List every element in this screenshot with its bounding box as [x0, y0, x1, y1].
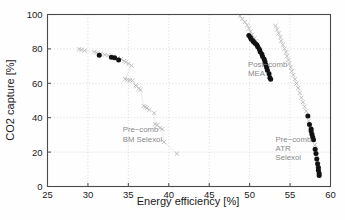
annotation-line: Selexol — [276, 153, 302, 162]
data-point-marker-x — [293, 77, 297, 81]
data-point-marker-dot — [313, 151, 318, 156]
data-point-marker-x — [275, 28, 279, 32]
annotation-line: Post−comb — [248, 60, 288, 69]
data-point-marker-x — [240, 17, 244, 21]
data-point-marker-x — [299, 96, 303, 100]
series-annotation: Pre−combBM Selexol — [123, 125, 163, 143]
data-point-marker-x — [243, 20, 247, 24]
y-axis-label: CO2 capture [%] — [4, 59, 16, 140]
data-point-marker-x — [138, 88, 142, 92]
data-point-marker-x — [303, 105, 307, 109]
annotation-line: BM Selexol — [123, 135, 163, 144]
data-point-marker-dot — [311, 137, 316, 142]
data-point-marker-dot — [268, 77, 273, 82]
data-point-marker-x — [289, 65, 293, 69]
tick-labels-layer: 2530354045505560020406080100 — [27, 9, 336, 200]
y-tick-label: 80 — [32, 43, 43, 54]
data-point-marker-dot — [267, 71, 272, 76]
data-point-marker-dot — [116, 57, 121, 62]
annotation-line: Pre−comb — [276, 135, 312, 144]
data-point-marker-dot — [314, 156, 319, 161]
y-tick-label: 60 — [32, 78, 43, 89]
data-point-marker-x — [279, 39, 283, 43]
data-point-marker-x — [278, 35, 282, 39]
data-point-marker-x — [284, 50, 288, 54]
x-tick-label: 55 — [285, 189, 296, 200]
data-point-marker-dot — [97, 53, 102, 58]
annotation-line: ATR — [276, 144, 291, 153]
data-point-marker-x — [147, 108, 151, 112]
data-point-marker-x — [282, 46, 286, 50]
data-point-marker-x — [296, 86, 300, 90]
data-point-marker-x — [285, 54, 289, 58]
x-tick-label: 30 — [83, 189, 94, 200]
data-point-marker-dot — [305, 113, 310, 118]
data-point-marker-x — [273, 24, 277, 28]
x-tick-label: 25 — [42, 189, 53, 200]
x-tick-label: 50 — [244, 189, 255, 200]
series-annotation: Pre−combATRSelexol — [276, 135, 312, 162]
data-point-marker-x — [281, 43, 285, 47]
x-tick-label: 35 — [123, 189, 134, 200]
annotation-line: MEA — [248, 69, 266, 78]
data-point-marker-x — [175, 152, 179, 156]
data-point-marker-x — [277, 31, 281, 35]
data-point-marker-x — [304, 109, 308, 113]
data-point-marker-x — [301, 100, 305, 104]
y-tick-label: 100 — [27, 9, 43, 20]
y-tick-label: 40 — [32, 112, 43, 123]
annotation-line: Pre−comb — [123, 125, 159, 134]
data-point-marker-dot — [313, 147, 318, 152]
data-point-marker-x — [298, 91, 302, 95]
data-point-marker-x — [287, 62, 291, 66]
data-point-marker-dot — [307, 122, 312, 127]
y-tick-label: 0 — [37, 181, 42, 192]
data-point-marker-x — [291, 73, 295, 77]
y-tick-label: 20 — [32, 147, 43, 158]
scatter-plot-canvas: 2530354045505560020406080100 Pre−combBM … — [0, 0, 345, 220]
data-point-marker-dot — [317, 173, 322, 178]
x-tick-label: 60 — [325, 189, 336, 200]
x-axis-label: Energy efficiency [%] — [137, 195, 240, 207]
chart-figure: 2530354045505560020406080100 Pre−combBM … — [0, 0, 345, 220]
data-point-marker-x — [290, 69, 294, 73]
